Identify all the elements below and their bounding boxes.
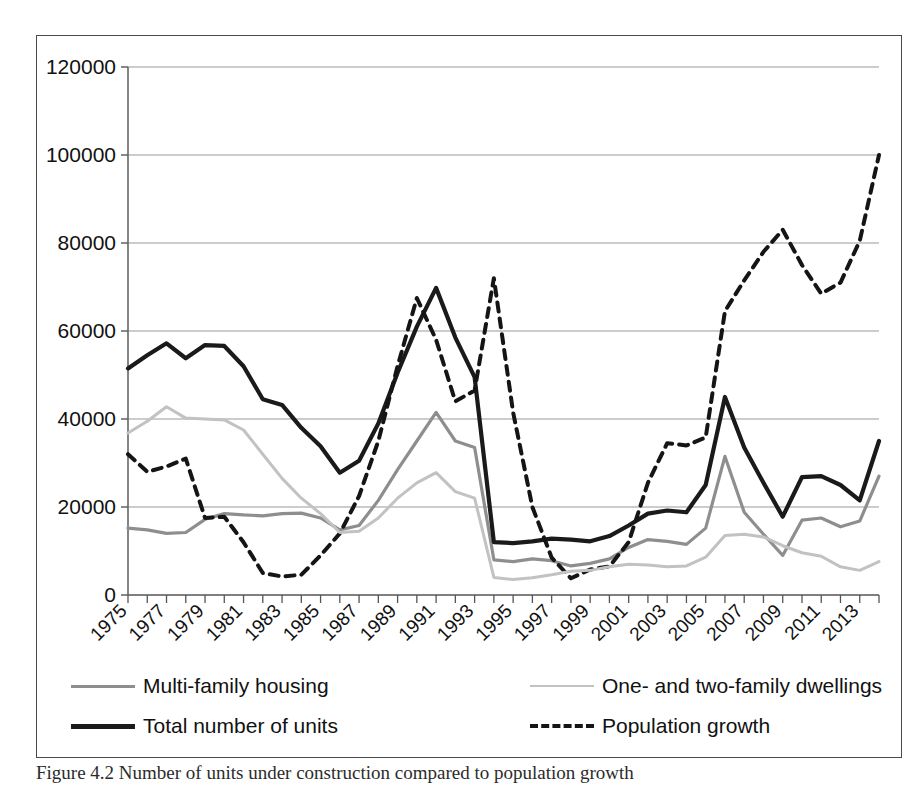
ytick-label: 100000 bbox=[46, 143, 116, 166]
xtick-label: 2007 bbox=[702, 600, 747, 645]
figure-frame: 0200004000060000800001000001200001975197… bbox=[36, 35, 902, 758]
xtick-label: 2001 bbox=[587, 600, 632, 645]
legend-item-total-number-of-units: Total number of units bbox=[71, 714, 470, 738]
legend-swatch-one-and-two-family-dwellings bbox=[530, 685, 594, 687]
ytick-label: 120000 bbox=[46, 55, 116, 78]
xtick-label: 1979 bbox=[163, 600, 208, 645]
xtick-label: 2003 bbox=[625, 600, 670, 645]
xtick-label: 2005 bbox=[664, 600, 709, 645]
legend-row-2: Total number of units Population growth bbox=[71, 706, 869, 746]
legend-label-one-and-two-family-dwellings: One- and two-family dwellings bbox=[602, 674, 882, 698]
xtick-label: 1989 bbox=[356, 600, 401, 645]
xtick-label: 1993 bbox=[433, 600, 478, 645]
xtick-label: 2011 bbox=[780, 600, 824, 644]
xtick-label: 1991 bbox=[394, 600, 439, 645]
figure-caption: Figure 4.2 Number of units under constru… bbox=[36, 762, 906, 788]
ytick-label: 20000 bbox=[58, 495, 116, 518]
xtick-label: 1985 bbox=[279, 600, 324, 645]
xtick-label: 1999 bbox=[548, 600, 593, 645]
xtick-label: 1987 bbox=[317, 600, 362, 645]
xtick-label: 1997 bbox=[510, 600, 555, 645]
legend-swatch-total-number-of-units bbox=[71, 724, 135, 729]
xtick-label: 1977 bbox=[125, 600, 170, 645]
legend-swatch-multi-family-housing bbox=[71, 685, 135, 688]
legend-item-population-growth: Population growth bbox=[470, 714, 869, 738]
chart-legend: Multi-family housing One- and two-family… bbox=[37, 666, 903, 746]
series-line-total-number-of-units bbox=[128, 288, 879, 543]
xtick-label: 1975 bbox=[86, 600, 131, 645]
xtick-label: 1983 bbox=[240, 600, 285, 645]
ytick-label: 40000 bbox=[58, 407, 116, 430]
legend-label-multi-family-housing: Multi-family housing bbox=[143, 674, 329, 698]
xtick-label: 2009 bbox=[741, 600, 786, 645]
chart-plot: 0200004000060000800001000001200001975197… bbox=[37, 36, 903, 666]
ytick-label: 80000 bbox=[58, 231, 116, 254]
ytick-label: 60000 bbox=[58, 319, 116, 342]
legend-item-one-and-two-family-dwellings: One- and two-family dwellings bbox=[470, 674, 869, 698]
legend-item-multi-family-housing: Multi-family housing bbox=[71, 674, 470, 698]
series-line-one-and-two-family-dwellings bbox=[128, 407, 879, 580]
legend-label-population-growth: Population growth bbox=[602, 714, 770, 738]
legend-row-1: Multi-family housing One- and two-family… bbox=[71, 666, 869, 706]
legend-label-total-number-of-units: Total number of units bbox=[143, 714, 338, 738]
xtick-label: 1995 bbox=[471, 600, 516, 645]
xtick-label: 2013 bbox=[818, 600, 863, 645]
xtick-label: 1981 bbox=[202, 600, 247, 645]
legend-swatch-population-growth bbox=[530, 724, 594, 728]
